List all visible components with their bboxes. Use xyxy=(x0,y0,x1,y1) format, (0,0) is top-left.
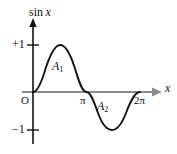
plot-canvas xyxy=(0,0,177,154)
x-axis-arrowhead xyxy=(152,88,162,97)
area-label-a1-subscript: 1 xyxy=(59,65,63,74)
tick-label-two-pi: 2π xyxy=(134,95,145,106)
y-axis xyxy=(29,18,36,144)
sine-curve xyxy=(33,45,140,130)
area-label-a2: A2 xyxy=(97,100,108,114)
y-axis-label: sin x xyxy=(29,6,51,18)
tick-label-pi: π xyxy=(80,95,86,106)
area-label-a1: A1 xyxy=(52,60,63,74)
y-axis-label-function: sin xyxy=(29,5,43,19)
tick-label-positive-one: +1 xyxy=(12,38,25,50)
area-label-a2-subscript: 2 xyxy=(104,105,108,114)
origin-label: O xyxy=(21,95,29,106)
y-axis-arrowhead xyxy=(29,18,36,27)
tick-label-negative-one: −1 xyxy=(12,123,25,135)
sine-graph-figure: sin x x +1 −1 O π 2π A1 A2 xyxy=(0,0,177,154)
y-axis-label-variable: x xyxy=(45,5,50,19)
x-axis-label: x xyxy=(165,82,170,94)
